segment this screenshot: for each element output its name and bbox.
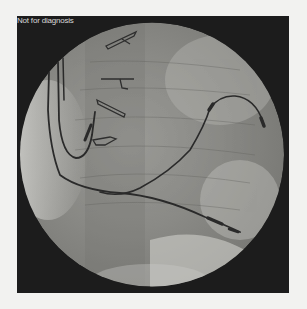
fluoroscopy-image [0, 0, 307, 309]
not-for-diagnosis-label: Not for diagnosis [17, 16, 74, 25]
